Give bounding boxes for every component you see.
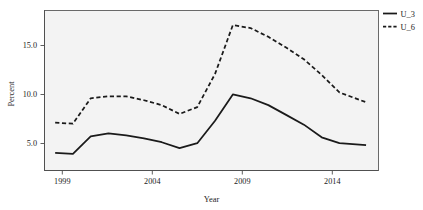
y-tick-label: 10.0 [23,90,37,99]
y-axis: 15.0 10.0 5.0 Percent [7,11,45,171]
y-tick-label: 15.0 [23,41,37,50]
x-tick-label: 1999 [54,177,70,186]
y-tick-group: 5.0 [27,139,45,148]
plot-panel-background [45,11,379,171]
y-tick-label: 5.0 [27,139,37,148]
x-tick-label: 2009 [234,177,250,186]
x-tick-group: 2009 [234,171,250,187]
x-axis: 1999 2004 2009 2014 Year [45,171,379,205]
x-tick-group: 1999 [54,171,70,187]
x-tick-label: 2004 [144,177,160,186]
y-tick-group: 15.0 [23,41,45,50]
x-tick-group: 2014 [324,171,340,187]
legend-label-u6: U_6 [401,23,415,32]
y-tick-group: 10.0 [23,90,45,99]
line-chart: 15.0 10.0 5.0 Percent 1999 2004 [0,0,423,210]
legend: U_3 U_6 [383,10,415,32]
chart-figure: 15.0 10.0 5.0 Percent 1999 2004 [0,0,423,210]
legend-label-u3: U_3 [401,10,415,19]
x-axis-title: Year [204,195,220,204]
y-axis-title: Percent [7,81,16,107]
x-tick-label: 2014 [324,177,340,186]
x-tick-group: 2004 [144,171,160,187]
